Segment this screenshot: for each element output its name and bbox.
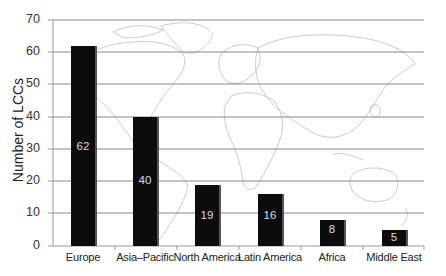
y-tick-label: 30 bbox=[14, 141, 40, 155]
y-tick-label: 10 bbox=[14, 205, 40, 219]
bar-value-label: 8 bbox=[320, 223, 344, 235]
bar-chart: Number of LCCs 70 60 50 40 30 20 10 0 62… bbox=[0, 0, 446, 276]
bar-europe: 62 bbox=[71, 46, 95, 246]
y-tick-label: 60 bbox=[14, 44, 40, 58]
bar-value-label: 16 bbox=[258, 209, 282, 221]
bar-value-label: 40 bbox=[133, 174, 157, 186]
y-tick-label: 40 bbox=[14, 109, 40, 123]
bar-value-label: 5 bbox=[382, 231, 406, 243]
bar-asia-pacific: 40 bbox=[133, 117, 157, 246]
bar-middle-east: 5 bbox=[382, 230, 406, 246]
bar-north-america: 19 bbox=[195, 185, 219, 246]
bar-latin-america: 16 bbox=[258, 194, 282, 246]
y-tick-label: 20 bbox=[14, 173, 40, 187]
y-tick-label: 0 bbox=[14, 238, 40, 252]
y-tick-label: 70 bbox=[14, 12, 40, 26]
bar-africa: 8 bbox=[320, 220, 344, 246]
x-category-label: Middle East bbox=[354, 251, 434, 263]
y-tick-label: 50 bbox=[14, 76, 40, 90]
bar-value-label: 62 bbox=[71, 140, 95, 152]
axes bbox=[0, 0, 446, 276]
bar-value-label: 19 bbox=[195, 209, 219, 221]
